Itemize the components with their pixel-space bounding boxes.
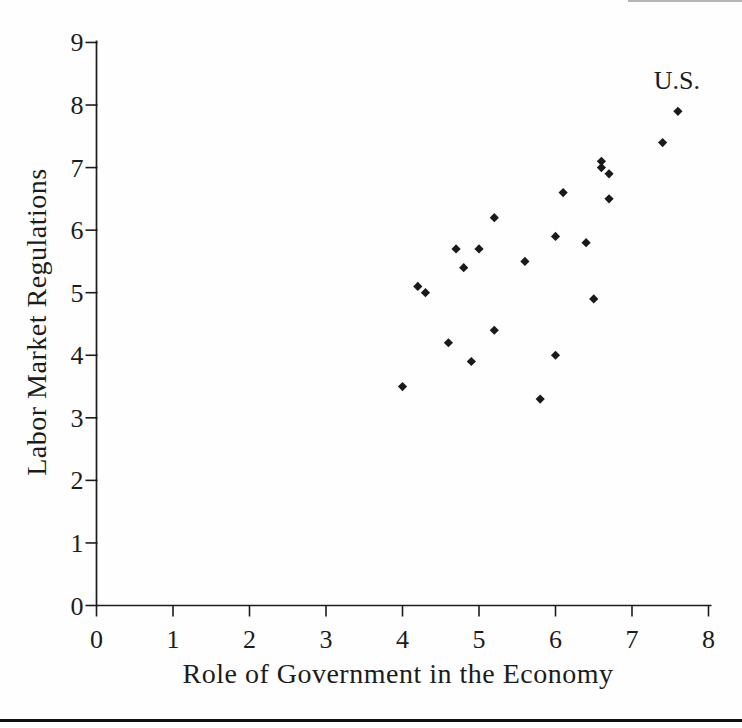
data-point <box>398 382 407 391</box>
y-axis-tick-label: 3 <box>71 404 84 433</box>
x-axis-tick-label: 3 <box>320 625 333 654</box>
data-point <box>444 338 453 347</box>
point-label: U.S. <box>654 66 700 95</box>
data-point <box>582 238 591 247</box>
x-axis-tick-label: 4 <box>396 625 409 654</box>
data-point <box>490 326 499 335</box>
data-point <box>551 232 560 241</box>
data-point <box>673 107 682 116</box>
data-point <box>467 357 476 366</box>
y-axis-tick-label: 5 <box>71 279 84 308</box>
x-axis-tick-label: 2 <box>243 625 256 654</box>
y-axis-tick-label: 2 <box>71 466 84 495</box>
figure-page: 0123456780123456789U.S. Labor Market Reg… <box>0 0 742 728</box>
y-axis-tick-label: 8 <box>71 91 84 120</box>
data-point <box>421 288 430 297</box>
y-axis-tick-label: 7 <box>71 154 84 183</box>
scan-artifact-line <box>628 0 742 2</box>
data-point <box>551 351 560 360</box>
data-point <box>658 138 667 147</box>
x-axis-tick-label: 1 <box>167 625 180 654</box>
x-axis-tick-label: 6 <box>549 625 562 654</box>
x-axis-tick-label: 0 <box>90 625 103 654</box>
scatter-chart: 0123456780123456789U.S. Labor Market Reg… <box>0 0 742 728</box>
data-point <box>536 394 545 403</box>
data-point <box>459 263 468 272</box>
plot-svg: 0123456780123456789U.S. <box>0 0 742 728</box>
y-axis-tick-label: 9 <box>71 28 84 57</box>
data-point <box>604 194 613 203</box>
data-point <box>413 282 422 291</box>
data-point <box>559 188 568 197</box>
bottom-rule <box>0 719 742 722</box>
data-point <box>474 244 483 253</box>
x-axis-tick-label: 8 <box>702 625 715 654</box>
x-axis-tick-label: 7 <box>626 625 639 654</box>
data-point <box>604 169 613 178</box>
y-axis-tick-label: 0 <box>71 592 84 621</box>
y-axis-tick-label: 6 <box>71 216 84 245</box>
data-point <box>597 163 606 172</box>
data-point <box>490 213 499 222</box>
data-point <box>589 294 598 303</box>
y-axis-tick-label: 4 <box>71 341 84 370</box>
data-point <box>520 257 529 266</box>
x-axis-title: Role of Government in the Economy <box>90 658 706 690</box>
y-axis-title: Labor Market Regulations <box>21 168 53 475</box>
x-axis-tick-label: 5 <box>473 625 486 654</box>
y-axis-tick-label: 1 <box>71 529 84 558</box>
data-point <box>451 244 460 253</box>
